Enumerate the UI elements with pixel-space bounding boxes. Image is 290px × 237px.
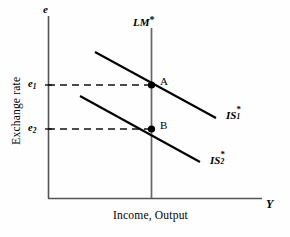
curve-label-is1: IS*1 [226,108,243,121]
point-a-label: A [160,76,168,87]
curve-label-is2-marks: *2 [220,153,227,164]
curve-label-is2-base: IS [210,154,220,166]
curve-label-is2-subscript: 2 [220,158,224,166]
curve-label-lm: LM* [133,15,155,28]
y-tick-label-e2-subscript: 2 [33,126,37,135]
point-a-marker [148,81,155,88]
x-axis-title: Income, Output [48,210,253,222]
curve-label-is1-subscript: 1 [236,113,240,121]
y-axis-title: Exchange rate [11,56,23,166]
y-tick-label-e2: e2 [28,123,36,135]
point-b-label: B [160,120,167,131]
x-axis-symbol: Y [266,198,273,210]
point-b-marker [148,125,155,132]
curve-label-lm-star: * [150,14,155,25]
mundell-fleming-diagram: Exchange rate Income, Output e Y e1 e2 L… [0,0,290,237]
y-tick-label-e1: e1 [28,79,36,91]
curve-label-is2: IS*2 [210,153,227,166]
curve-label-is1-base: IS [226,109,236,121]
curve-label-lm-base: LM [133,16,150,28]
y-axis-symbol: e [43,4,48,15]
curve-label-is1-marks: *1 [236,108,243,119]
diagram-canvas [0,0,290,237]
y-tick-label-e1-subscript: 1 [33,82,37,91]
